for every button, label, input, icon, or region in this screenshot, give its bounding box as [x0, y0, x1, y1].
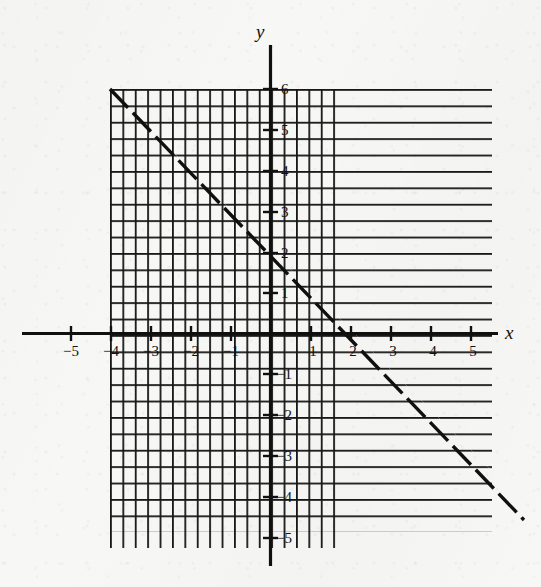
coordinate-plot [0, 0, 541, 587]
y-tick-label: −1 [276, 367, 292, 382]
y-axis-label: y [256, 22, 264, 41]
graph-figure: x y −5 −4 −3 −2 −1 1 2 3 4 5 6 5 4 3 2 1… [0, 0, 541, 587]
y-tick-label: 3 [281, 205, 289, 220]
y-tick-label: 5 [281, 123, 289, 138]
y-tick-label: 2 [281, 246, 289, 261]
horizontal-hatch-fill [110, 89, 492, 532]
x-tick-label: 3 [389, 344, 397, 359]
horizontal-hatch-region [110, 89, 492, 532]
x-tick-label: −3 [143, 344, 159, 359]
y-tick-label: 6 [281, 82, 289, 97]
y-tick-label: 1 [281, 286, 289, 301]
x-tick-label: −1 [223, 344, 239, 359]
x-tick-label: −2 [183, 344, 199, 359]
x-tick-label: 5 [469, 344, 477, 359]
x-tick-label: 4 [429, 344, 437, 359]
x-tick-label: −4 [103, 344, 119, 359]
y-tick-label: −5 [276, 531, 292, 546]
y-tick-label: 4 [281, 164, 289, 179]
x-axis-label: x [505, 323, 513, 342]
y-tick-label: −4 [276, 490, 292, 505]
y-tick-label: −3 [276, 449, 292, 464]
y-tick-label: −2 [276, 408, 292, 423]
x-tick-label: −5 [63, 344, 79, 359]
x-tick-label: 1 [309, 344, 317, 359]
x-tick-label: 2 [349, 344, 357, 359]
